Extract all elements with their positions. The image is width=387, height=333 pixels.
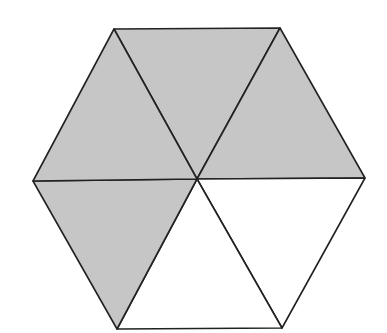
- hexagon-diagram: [0, 0, 387, 333]
